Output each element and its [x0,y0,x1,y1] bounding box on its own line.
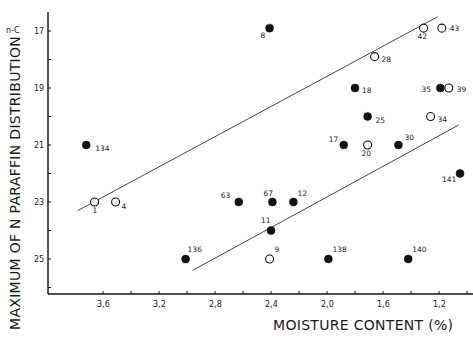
upper-boundary-line [78,17,438,211]
filled-point-marker [268,198,276,206]
point-label: 8 [261,31,266,40]
point-label: 9 [275,245,280,254]
x-tick-label: 3,2 [153,300,166,309]
point-label: 11 [261,216,271,225]
filled-point-marker [436,84,444,92]
point-label: 17 [329,135,339,144]
point-label: 30 [404,133,414,142]
data-points: 8183525173013414163671211136138140424328… [82,24,466,263]
open-point-marker [420,24,428,32]
point-label: 1 [93,206,98,215]
scatter-chart: 3,63,22,82,42,01,61,21719212325 81835251… [0,0,473,350]
open-point-marker [445,84,453,92]
point-label: 28 [382,55,392,64]
point-label: 4 [122,202,127,211]
y-tick-label: 21 [34,141,44,150]
filled-point-marker [340,141,348,149]
open-point-marker [371,53,379,61]
x-tick-label: 3,6 [97,300,110,309]
filled-point-marker [394,141,402,149]
point-label: 136 [188,245,203,254]
y-unit-label: n-C [6,26,20,35]
filled-point-marker [182,255,190,263]
open-point-marker [112,198,120,206]
point-label: 34 [438,115,448,124]
axes [48,12,473,294]
open-point-marker [427,113,435,121]
point-label: 138 [332,245,347,254]
point-label: 39 [457,85,467,94]
point-label: 140 [412,245,427,254]
filled-point-marker [364,113,372,121]
filled-point-marker [289,198,297,206]
y-tick-label: 17 [34,27,44,36]
filled-point-marker [456,170,464,178]
point-label: 12 [297,189,307,198]
open-point-marker [266,255,274,263]
x-tick-label: 2,0 [321,300,334,309]
x-tick-label: 1,2 [433,300,446,309]
x-tick-label: 1,6 [377,300,390,309]
x-axis-title: MOISTURE CONTENT (%) [273,317,453,333]
point-label: 43 [450,24,460,33]
open-point-marker [438,24,446,32]
axis-ticks: 3,63,22,82,42,01,61,21719212325 [34,27,467,309]
open-point-marker [91,198,99,206]
y-axis-title: MAXIMUM OF N PARAFFIN DISTRIBUTION [7,36,23,330]
point-label: 67 [263,189,273,198]
point-label: 63 [221,191,231,200]
y-tick-label: 19 [34,84,44,93]
filled-point-marker [82,141,90,149]
point-label: 25 [376,116,386,125]
point-label: 18 [362,86,372,95]
point-label: 134 [95,144,110,153]
filled-point-marker [235,198,243,206]
x-tick-label: 2,4 [265,300,278,309]
point-label: 20 [362,149,372,158]
filled-point-marker [266,24,274,32]
filled-point-marker [351,84,359,92]
filled-point-marker [324,255,332,263]
point-label: 141 [442,175,457,184]
filled-point-marker [404,255,412,263]
point-label: 35 [421,85,431,94]
y-tick-label: 23 [34,198,44,207]
point-label: 42 [418,32,428,41]
filled-point-marker [267,227,275,235]
x-tick-label: 2,8 [209,300,222,309]
y-tick-label: 25 [34,255,44,264]
open-point-marker [364,141,372,149]
